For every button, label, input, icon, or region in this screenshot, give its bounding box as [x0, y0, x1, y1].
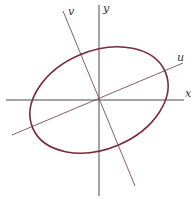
x-axis-label: x — [185, 87, 192, 100]
y-axis-label: y — [102, 2, 110, 15]
u-axis-label: u — [177, 51, 184, 64]
u-axis — [12, 63, 183, 135]
ellipse-diagram: y x v u — [0, 0, 193, 207]
v-axis-label: v — [68, 5, 75, 18]
